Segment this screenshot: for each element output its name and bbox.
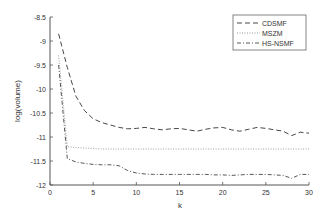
y-tick-label: -10: [36, 86, 46, 93]
line-chart: 051015202530-8.5-9-9.5-10-10.5-11-11.5-1…: [0, 0, 325, 216]
x-tick-label: 20: [219, 189, 227, 196]
legend-label: MSZM: [262, 30, 283, 37]
legend: CDSMFMSZMHS-NSMF: [233, 15, 306, 50]
x-tick-label: 30: [305, 189, 313, 196]
x-tick-label: 10: [132, 189, 140, 196]
y-tick-label: -12: [36, 182, 46, 189]
y-tick-label: -10.5: [30, 110, 46, 117]
legend-label: CDSMF: [262, 20, 287, 27]
x-tick-label: 5: [91, 189, 95, 196]
x-axis-label: k: [178, 201, 183, 210]
x-tick-label: 0: [48, 189, 52, 196]
y-tick-label: -9: [40, 38, 46, 45]
x-tick-label: 25: [262, 189, 270, 196]
y-tick-label: -11: [36, 134, 46, 141]
x-tick-label: 15: [176, 189, 184, 196]
y-tick-label: -8.5: [34, 14, 46, 21]
y-tick-label: -9.5: [34, 62, 46, 69]
y-axis-label: log(volume): [13, 80, 22, 122]
series-lines: [59, 34, 309, 179]
series-hs-nsmf: [59, 65, 309, 178]
legend-label: HS-NSMF: [262, 40, 294, 47]
y-tick-label: -11.5: [31, 158, 47, 165]
series-mszm: [59, 55, 309, 149]
